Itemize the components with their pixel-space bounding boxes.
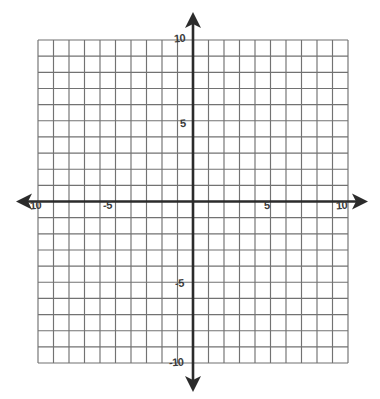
- x-axis-label-pos-5: 5: [264, 200, 270, 211]
- x-axis-label-pos-10: 10: [336, 200, 348, 212]
- figure-background: [0, 0, 380, 399]
- x-axis-label-neg-5: -5: [103, 200, 113, 212]
- y-axis-label-pos-5: 5: [180, 118, 186, 129]
- y-axis-label-pos-10: 10: [174, 33, 186, 45]
- y-axis-label-neg-5: -5: [175, 278, 185, 290]
- x-axis-label-neg-10: 10: [30, 200, 42, 212]
- y-axis-label-neg-10: -10: [169, 357, 184, 369]
- coordinate-grid-canvas: [0, 0, 380, 399]
